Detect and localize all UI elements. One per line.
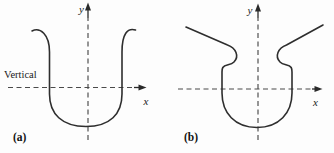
x-axis-arrow-icon-b xyxy=(315,86,323,92)
panel-a: y x Vertical (a) xyxy=(4,3,149,145)
x-axis-label-a: x xyxy=(143,95,149,107)
vertical-annotation: Vertical xyxy=(4,69,37,80)
x-axis-arrow-icon-a xyxy=(139,85,147,91)
caption-b: (b) xyxy=(184,131,198,144)
y-axis-label-a: y xyxy=(78,3,84,15)
y-axis-arrow-icon-a xyxy=(85,3,91,11)
curve-a xyxy=(32,29,136,126)
y-axis-arrow-icon-b xyxy=(255,4,261,12)
curve-b xyxy=(186,25,323,128)
x-axis-label-b: x xyxy=(312,96,318,108)
panel-b: y x (b) xyxy=(178,4,323,145)
caption-a: (a) xyxy=(13,131,27,144)
figure-canvas: y x Vertical (a) y x (b) xyxy=(0,0,334,153)
y-axis-label-b: y xyxy=(247,4,253,16)
curves-diagram: y x Vertical (a) y x (b) xyxy=(0,0,334,153)
